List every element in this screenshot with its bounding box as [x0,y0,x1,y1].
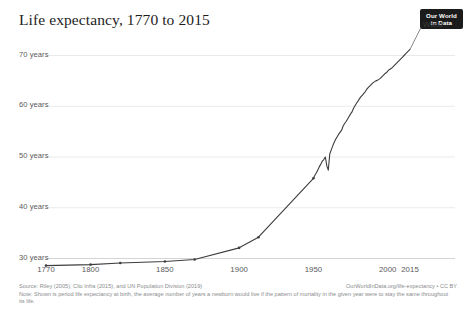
chart-container: Life expectancy, 1770 to 2015 Our World … [0,0,470,316]
data-point [193,258,196,261]
x-tick-label: 1800 [82,265,100,274]
series-lines [46,49,410,265]
source-text: Source: Riley (2005), Clio Infra (2015),… [19,283,202,290]
x-tick-label: 1850 [156,265,174,274]
leader-line [410,27,421,49]
x-tick-label: 2000 [379,265,397,274]
series-points [45,177,315,267]
series-line-world [46,49,410,265]
footer-top-row: Source: Riley (2005), Clio Infra (2015),… [19,283,457,290]
data-point [119,262,122,265]
data-point [164,260,167,263]
y-tick-label: 60 years [19,100,49,109]
x-tick-label: 2015 [401,265,419,274]
x-tick-label: 1900 [230,265,248,274]
y-tick-label: 30 years [19,253,49,262]
data-point [312,177,315,180]
data-point [257,236,260,239]
y-tick-label: 50 years [19,151,49,160]
y-tick-label: 70 years [19,50,49,59]
label-leader-line [410,27,421,49]
x-tick-label: 1950 [305,265,323,274]
license-link[interactable]: OurWorldInData.org/life-expectancy • CC … [346,283,457,290]
note-text: Note: Shown is period life expectancy at… [19,291,449,305]
chart-footer: Source: Riley (2005), Clio Infra (2015),… [19,283,457,305]
gridlines [46,56,455,259]
plot-area: 30 years40 years50 years60 years70 years… [0,0,470,316]
data-point [238,247,241,250]
y-tick-label: 40 years [19,202,49,211]
x-tick-label: 1770 [37,265,55,274]
series-label-world: World [423,20,443,29]
